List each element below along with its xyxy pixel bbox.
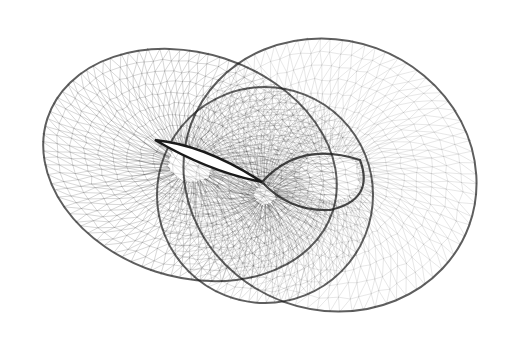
wireframe-surface-figure xyxy=(0,0,517,350)
